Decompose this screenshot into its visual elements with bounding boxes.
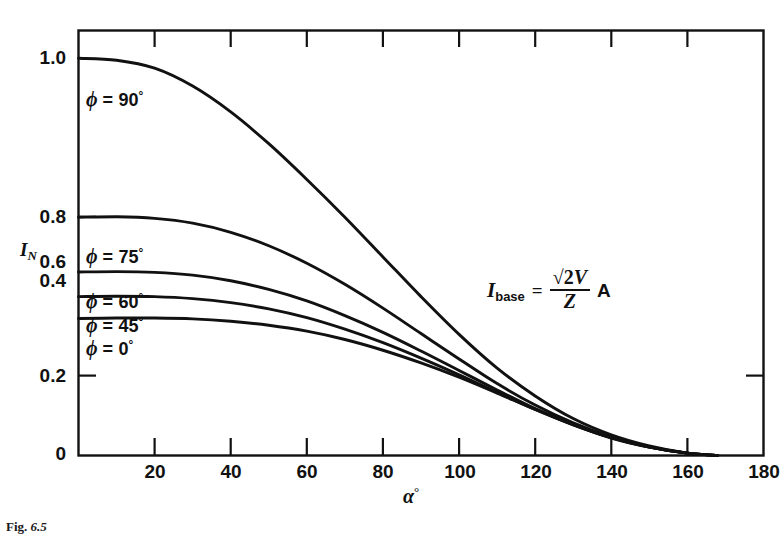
x-tick-label-80: 80 [357,462,409,481]
x-tick-label-180: 180 [735,462,782,481]
phi-value: 60 [118,292,138,312]
degree-symbol: ° [129,338,134,352]
y-tick-label-0.8: 0.8 [14,207,66,226]
phi-value: 75 [118,247,138,267]
formula-denominator: Z [564,291,576,312]
phi-value: 0 [118,339,128,359]
degree-symbol: ° [139,246,144,260]
phi-symbol: ϕ [86,337,98,359]
curve-set [79,58,718,455]
phi-symbol: ϕ [86,290,98,312]
bottom-axis-ticks [155,438,688,455]
x-axis-title-degree: ° [414,484,419,499]
y-axis-title: IN [20,239,37,264]
y-tick-label-0.4: 0.4 [14,271,66,290]
equals-sign: = [103,339,114,359]
equals-sign: = [103,316,114,336]
curve-phi-45 [79,296,718,455]
equals-sign: = [103,292,114,312]
y-tick-label-1.0: 1.0 [14,48,66,67]
degree-symbol: ° [139,89,144,103]
x-axis-title-symbol: α [403,485,414,507]
equals-sign: = [103,247,114,267]
curve-phi-90 [79,58,718,455]
formula-numerator: √2V [550,267,590,288]
equals-sign: = [103,90,114,110]
x-axis-title: α° [403,484,419,508]
x-tick-label-160: 160 [659,462,717,481]
curve-label-phi-45: ϕ = 45° [86,315,143,335]
x-tick-label-40: 40 [205,462,257,481]
curve-label-phi-75: ϕ = 75° [86,246,143,266]
x-tick-label-140: 140 [583,462,641,481]
curve-phi-75 [79,217,718,456]
phi-symbol: ϕ [86,88,98,110]
formula-i: I [487,278,495,302]
phi-symbol: ϕ [86,245,98,267]
formula-equals: = [532,280,543,302]
x-tick-label-20: 20 [129,462,181,481]
plot-frame [79,31,764,456]
formula-radical: √2 [553,266,574,288]
phi-value: 45 [118,316,138,336]
degree-symbol: ° [139,291,144,305]
figure-caption-prefix: Fig. [6,519,27,534]
base-current-formula: Ibase = √2V Z A [487,268,611,313]
top-axis-ticks [155,31,688,47]
curve-label-phi-60: ϕ = 60° [86,291,143,311]
curve-label-phi-0: ϕ = 0° [86,338,133,358]
curve-phi-60 [79,272,718,456]
degree-symbol: ° [139,315,144,329]
y-axis-title-subscript: N [27,248,36,263]
curve-label-phi-90: ϕ = 90° [86,89,143,109]
formula-unit: A [597,280,611,302]
figure-caption: Fig. 6.5 [6,519,47,535]
phi-symbol: ϕ [86,314,98,336]
y-tick-label-0: 0 [14,444,66,463]
formula-subscript: base [495,288,525,303]
formula-voltage-var: V [574,266,587,288]
figure-caption-number: 6.5 [31,519,47,534]
formula-symbol-i-base: Ibase [487,278,525,304]
x-tick-label-120: 120 [507,462,565,481]
formula-fraction: √2V Z [550,267,590,312]
x-tick-label-100: 100 [431,462,489,481]
y-tick-label-0.2: 0.2 [14,366,66,385]
x-tick-label-60: 60 [281,462,333,481]
phi-value: 90 [118,90,138,110]
